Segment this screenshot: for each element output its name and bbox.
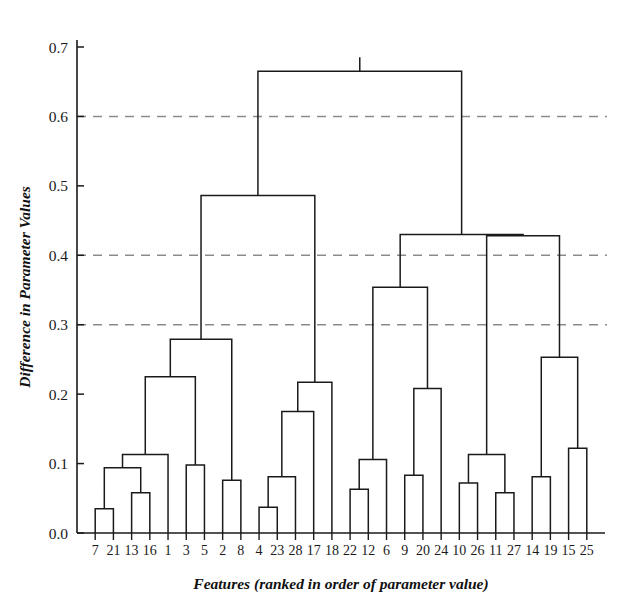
leaf-label-23: 23 xyxy=(270,543,284,558)
dendrogram-link-m4 xyxy=(123,455,169,533)
leaf-label-11: 11 xyxy=(489,543,502,558)
leaf-label-group: 7211316135284232817182212692024102611271… xyxy=(92,543,594,558)
dendrogram-figure: 0.00.10.20.30.40.50.60.7 721131613528423… xyxy=(0,0,623,614)
dendrogram-link-m25 xyxy=(487,236,560,455)
dendrogram-link-m26 xyxy=(400,234,523,287)
leaf-label-6: 6 xyxy=(383,543,390,558)
dendrogram-link-m17 xyxy=(414,389,441,533)
dendrogram-link-m1 xyxy=(95,509,113,533)
leaf-label-26: 26 xyxy=(471,543,485,558)
dendrogram-link-m23 xyxy=(569,448,587,533)
leaf-label-15: 15 xyxy=(562,543,576,558)
leaf-label-25: 25 xyxy=(580,543,594,558)
dendrogram-link-m22 xyxy=(532,477,550,533)
leaf-label-9: 9 xyxy=(401,543,408,558)
dendrogram-link-m8 xyxy=(170,339,231,480)
leaf-label-14: 14 xyxy=(525,543,539,558)
dendrogram-link-m14 xyxy=(350,489,368,533)
x-axis-title: Features (ranked in order of parameter v… xyxy=(192,575,488,593)
dendrogram-link-m6 xyxy=(145,377,195,465)
leaf-label-7: 7 xyxy=(92,543,99,558)
leaf-label-24: 24 xyxy=(434,543,448,558)
y-tick-label: 0.5 xyxy=(49,177,69,194)
y-tick-label: 0.0 xyxy=(49,525,69,542)
leaf-label-8: 8 xyxy=(237,543,244,558)
gridline-group xyxy=(77,116,607,324)
leaf-label-1: 1 xyxy=(165,543,172,558)
dendrogram-link-m9 xyxy=(259,507,277,533)
leaf-label-22: 22 xyxy=(343,543,357,558)
y-tick-label: 0.2 xyxy=(49,386,68,403)
dendrogram-link-m2 xyxy=(132,493,150,533)
leaf-label-16: 16 xyxy=(143,543,157,558)
leaf-label-20: 20 xyxy=(416,543,430,558)
y-tick-label: 0.6 xyxy=(49,108,69,125)
leaf-label-2: 2 xyxy=(219,543,226,558)
leaf-label-3: 3 xyxy=(183,543,190,558)
leaf-label-19: 19 xyxy=(543,543,557,558)
leaf-label-5: 5 xyxy=(201,543,208,558)
dendrogram-link-m27 xyxy=(258,71,462,234)
dendrogram-link-m3 xyxy=(104,468,140,509)
dendrogram-plot: 0.00.10.20.30.40.50.60.7 721131613528423… xyxy=(0,0,623,614)
dendrogram-link-m24 xyxy=(541,357,577,476)
dendrogram-link-m10 xyxy=(268,477,295,533)
dendrogram-link-m12 xyxy=(298,382,332,533)
leaf-label-28: 28 xyxy=(288,543,302,558)
dendrogram-link-group xyxy=(95,57,587,533)
dendrogram-link-m21 xyxy=(468,455,504,493)
dendrogram-link-m5 xyxy=(186,465,204,533)
leaf-label-18: 18 xyxy=(325,543,339,558)
leaf-label-21: 21 xyxy=(106,543,120,558)
dendrogram-link-m13 xyxy=(201,196,315,383)
y-tick-label: 0.4 xyxy=(49,247,69,264)
y-tick-label: 0.3 xyxy=(49,316,69,333)
leaf-label-12: 12 xyxy=(361,543,375,558)
leaf-label-10: 10 xyxy=(452,543,466,558)
dendrogram-link-m16 xyxy=(405,475,423,533)
leaf-label-4: 4 xyxy=(256,543,263,558)
x-tick-group xyxy=(95,533,587,540)
y-tick-group: 0.00.10.20.30.40.50.60.7 xyxy=(49,39,84,542)
axis-lines xyxy=(77,40,605,533)
dendrogram-link-m19 xyxy=(459,483,477,533)
leaf-label-13: 13 xyxy=(125,543,139,558)
y-tick-label: 0.1 xyxy=(49,455,68,472)
dendrogram-link-m7 xyxy=(223,480,241,533)
leaf-label-17: 17 xyxy=(307,543,321,558)
y-tick-label: 0.7 xyxy=(49,39,69,56)
y-axis-title: Difference in Parameter Values xyxy=(16,186,33,389)
dendrogram-link-m11 xyxy=(282,412,314,534)
dendrogram-link-m20 xyxy=(496,493,514,533)
leaf-label-27: 27 xyxy=(507,543,521,558)
dendrogram-link-m18 xyxy=(373,287,428,459)
dendrogram-link-m15 xyxy=(359,459,386,533)
